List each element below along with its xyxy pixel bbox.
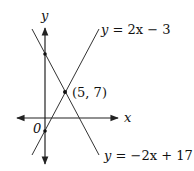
point-y-intercept-neg3 — [43, 129, 47, 133]
x-axis-label: x — [124, 110, 132, 125]
origin-label: 0 — [33, 121, 41, 136]
point-intersection — [63, 90, 67, 94]
line-label-neg2x-plus-17: y = −2x + 17 — [103, 148, 193, 163]
line-label-2x-minus-3: y = 2x − 3 — [100, 22, 171, 37]
point-y-intercept-17 — [43, 52, 47, 56]
coordinate-diagram: y x 0 (5, 7) y = 2x − 3 y = −2x + 17 — [0, 0, 194, 171]
y-axis-label: y — [40, 8, 49, 23]
intersection-label: (5, 7) — [72, 85, 107, 100]
